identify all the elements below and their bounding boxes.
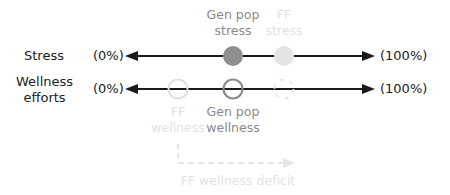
gen-pop-stress-marker — [223, 46, 243, 66]
ff-wellness-deficit-arrow — [178, 144, 295, 168]
gen-pop-wellness-label-line2: wellness — [203, 120, 263, 136]
gen-pop-wellness-label-line1: Gen pop — [203, 104, 263, 120]
stress-max-label: (100%) — [380, 48, 427, 63]
wellness-max-label: (100%) — [380, 81, 427, 96]
ff-stress-marker — [274, 46, 294, 66]
left-arrowhead-icon — [125, 84, 138, 94]
row-label-stress: Stress — [24, 48, 64, 64]
wellness-axis — [125, 84, 375, 94]
deficit-arrowhead-icon — [283, 158, 295, 168]
row-label-wellness-line1: Wellness — [16, 74, 73, 90]
ff-stress-label: FF stress — [264, 7, 304, 39]
ff-stress-label-line2: stress — [264, 23, 304, 39]
gen-pop-stress-label: Gen pop stress — [205, 7, 261, 39]
left-arrowhead-icon — [125, 51, 138, 61]
ff-wellness-deficit-label: FF wellness deficit — [176, 173, 300, 189]
ff-stress-label-line1: FF — [264, 7, 304, 23]
ff-wellness-label-line2: wellness — [148, 120, 208, 136]
row-label-wellness-line2: efforts — [16, 90, 73, 106]
row-label-wellness: Wellness efforts — [16, 74, 73, 106]
gen-pop-stress-label-line2: stress — [205, 23, 261, 39]
right-arrowhead-icon — [362, 51, 375, 61]
wellness-min-label: (0%) — [93, 81, 124, 96]
gen-pop-wellness-label: Gen pop wellness — [203, 104, 263, 136]
ff-wellness-label: FF wellness — [148, 104, 208, 136]
right-arrowhead-icon — [362, 84, 375, 94]
stress-min-label: (0%) — [93, 48, 124, 63]
ff-wellness-label-line1: FF — [148, 104, 208, 120]
gen-pop-stress-label-line1: Gen pop — [205, 7, 261, 23]
stress-axis — [125, 51, 375, 61]
